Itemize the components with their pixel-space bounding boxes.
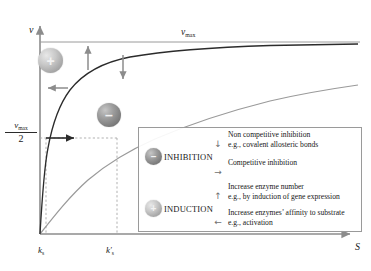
legend-entries-induction: ↑ Increase enzyme number e.g., by induct… [213,182,361,232]
arrow-left-icon: ← [213,208,223,229]
minus-badge-plot: – [97,103,121,127]
ks-prime-tick-label: k′s [106,246,114,256]
legend-badge-induction: + INDUCTION [145,200,213,217]
legend-entry-line1: Non competitive inhibition [228,130,310,139]
arrow-down-icon: ↓ [213,130,223,151]
plus-badge-plot: + [38,48,63,73]
minus-badge-legend: – [145,148,162,165]
vmax-half-label: vmax 2 [5,121,37,144]
legend-entry-text: Competitive inhibition [228,158,297,168]
y-axis-label: v [29,25,33,35]
legend-title-induction: INDUCTION [164,204,213,214]
plus-sign: + [38,48,63,73]
ks-prime-subscript: s [112,250,114,256]
legend-entry: ↓ Non competitive inhibition e.g., coval… [213,130,361,151]
legend-entries-inhibition: ↓ Non competitive inhibition e.g., coval… [213,130,361,182]
minus-sign: – [97,103,121,127]
plus-badge-legend: + [145,200,162,217]
legend-entry-line1: Increase enzymes’ affinity to substrate [228,208,345,217]
legend-entry: → Competitive inhibition [213,158,361,179]
legend-entry-text: Non competitive inhibition e.g., covalen… [228,130,318,150]
legend-entry-text: Increase enzyme number e.g., by inductio… [228,182,340,202]
legend-entry-line1: Competitive inhibition [228,158,297,167]
legend-entry-line2: e.g., by induction of gene expression [228,192,340,202]
plus-sign-legend: + [145,200,162,217]
legend-entry-line2: e.g., activation [228,218,345,228]
arrow-up-icon: ↑ [213,182,223,203]
legend-entry-line2: e.g., covalent allosteric bonds [228,140,318,150]
ks-subscript: s [42,250,44,256]
figure-root: v S vmax vmax 2 ks k′s + – – INHIBITION [0,0,371,271]
arrow-right-icon: → [213,158,223,179]
legend-title-inhibition: INHIBITION [164,152,213,162]
legend-box: – INHIBITION ↓ Non competitive inhibitio… [138,127,362,232]
vmax-half-subscript: max [18,125,28,131]
legend-entry: ↑ Increase enzyme number e.g., by induct… [213,182,361,203]
vmax-half-numerator: vmax [5,121,37,132]
vmax-label: vmax [181,28,195,39]
legend-entry: ← Increase enzymes’ affinity to substrat… [213,208,361,229]
legend-entry-text: Increase enzymes’ affinity to substrate … [228,208,345,228]
vmax-subscript: max [185,32,195,38]
vmax-half-denominator: 2 [5,133,37,144]
legend-badge-inhibition: – INHIBITION [145,148,213,165]
minus-sign-legend: – [145,148,162,165]
ks-tick-label: ks [38,246,44,256]
legend-entry-line1: Increase enzyme number [228,182,304,191]
x-axis-label: S [355,242,360,252]
